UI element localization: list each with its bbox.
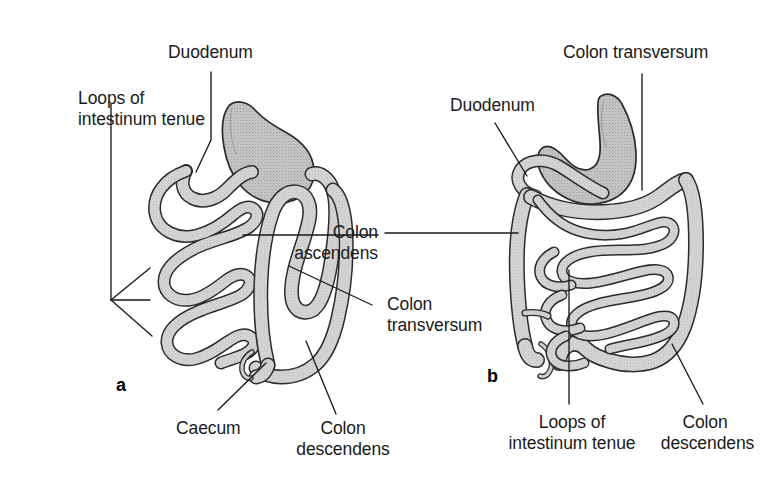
label-a-colon-ascendens-line1: Colon — [268, 222, 378, 243]
label-a-colon-transversum-line1: Colon — [387, 294, 432, 315]
anatomy-figure: Duodenum Loops of intestinum tenue Colon… — [0, 0, 781, 495]
label-a-colon-descendens-line2: descendens — [288, 439, 398, 460]
panel-letter-a: a — [116, 375, 126, 396]
label-b-colon-descendens-line2: descendens — [645, 433, 770, 454]
label-a-caecum: Caecum — [176, 418, 241, 439]
label-b-colon-transversum: Colon transversum — [563, 42, 708, 63]
label-a-colon-descendens-line1: Colon — [288, 418, 398, 439]
label-b-loops-line1: Loops of — [512, 412, 632, 433]
label-a-colon-transversum-line2: transversum — [387, 315, 482, 336]
label-a-loops-line2: intestinum tenue — [78, 109, 205, 130]
label-a-colon-ascendens-line2: ascendens — [268, 243, 378, 264]
label-b-loops-line2: intestinum tenue — [492, 433, 652, 454]
label-a-duodenum: Duodenum — [168, 42, 253, 63]
label-b-colon-descendens-line1: Colon — [650, 412, 760, 433]
panel-letter-b: b — [487, 366, 498, 387]
label-a-loops-line1: Loops of — [78, 88, 144, 109]
label-b-duodenum: Duodenum — [450, 95, 535, 116]
